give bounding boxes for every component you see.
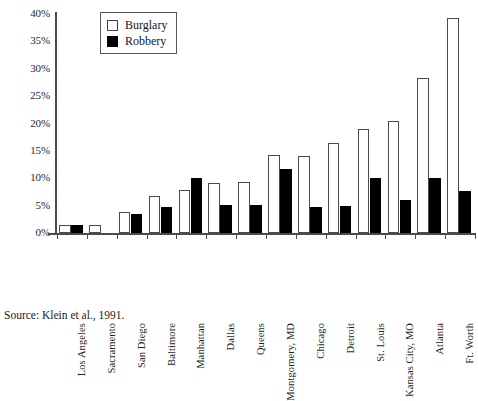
bar-burglary (208, 183, 220, 233)
bar-burglary (447, 18, 459, 233)
bar-group (358, 14, 382, 233)
x-tick-label: Baltimore (166, 323, 177, 366)
bar-robbery (459, 191, 471, 233)
bar-group (59, 14, 83, 233)
x-tick-mark (147, 233, 148, 239)
legend-item-robbery: Robbery (107, 33, 167, 49)
x-tick-mark (176, 233, 177, 239)
x-tick-mark (236, 233, 237, 239)
bar-burglary (89, 225, 101, 233)
x-tick-label: Montgomery, MD (285, 323, 296, 401)
x-tick-mark (326, 233, 327, 239)
x-axis-ticks (57, 233, 475, 241)
bar-group (298, 14, 322, 233)
x-tick-label: Los Angeles (76, 323, 87, 376)
chart-legend: Burglary Robbery (100, 12, 177, 54)
bar-robbery (220, 205, 232, 233)
x-tick-mark (57, 233, 58, 239)
x-tick-mark (356, 233, 357, 239)
bar-burglary (388, 121, 400, 233)
y-tick-label: 0% (6, 227, 50, 238)
bar-burglary (417, 78, 429, 233)
x-tick-label: Detroit (345, 323, 356, 353)
bar-robbery (161, 207, 173, 233)
y-tick-label: 40% (6, 8, 50, 19)
x-tick-mark (87, 233, 88, 239)
bar-robbery (280, 169, 292, 233)
bar-robbery (71, 225, 83, 233)
legend-label-robbery: Robbery (125, 35, 166, 47)
x-tick-label: Kansas City, MO (404, 323, 415, 397)
x-tick-mark (266, 233, 267, 239)
x-tick-mark (445, 233, 446, 239)
bar-robbery (340, 206, 352, 233)
x-tick-label: Manhattan (195, 323, 206, 369)
y-axis: 0%5%10%15%20%25%30%35%40% (0, 0, 50, 333)
x-tick-label: Ft. Worth (464, 323, 475, 364)
x-tick-mark (117, 233, 118, 239)
bar-group (238, 14, 262, 233)
bar-group (208, 14, 232, 233)
bar-burglary (268, 155, 280, 233)
legend-item-burglary: Burglary (107, 17, 167, 33)
bar-group (447, 14, 471, 233)
bar-burglary (59, 225, 71, 233)
x-tick-label: Chicago (315, 323, 326, 359)
bar-robbery (370, 178, 382, 233)
bar-robbery (429, 178, 441, 233)
x-tick-label: Dallas (225, 323, 236, 350)
bar-group (268, 14, 292, 233)
x-tick-mark (385, 233, 386, 239)
bar-burglary (238, 182, 250, 233)
x-tick-label: Atlanta (434, 323, 445, 355)
y-tick-label: 25% (6, 90, 50, 101)
y-tick-label: 35% (6, 35, 50, 46)
x-tick-mark (206, 233, 207, 239)
bar-robbery (250, 205, 262, 233)
y-tick-label: 15% (6, 145, 50, 156)
x-tick-label: San Diego (136, 323, 147, 368)
x-tick-label: Sacramento (106, 323, 117, 374)
bar-robbery (310, 207, 322, 233)
x-tick-mark (475, 233, 476, 239)
x-tick-label: St. Louis (375, 323, 386, 362)
bar-burglary (119, 212, 131, 233)
bar-burglary (149, 196, 161, 233)
legend-swatch-robbery-icon (107, 36, 118, 47)
bar-group (388, 14, 412, 233)
x-tick-mark (296, 233, 297, 239)
y-tick-label: 10% (6, 172, 50, 183)
x-tick-label: Queens (255, 323, 266, 355)
y-tick-label: 20% (6, 118, 50, 129)
bar-group (328, 14, 352, 233)
bar-group (417, 14, 441, 233)
bar-burglary (179, 190, 191, 233)
source-note: Source: Klein et al., 1991. (4, 309, 124, 321)
y-tick-label: 5% (6, 200, 50, 211)
legend-swatch-burglary-icon (107, 20, 118, 31)
legend-label-burglary: Burglary (125, 19, 167, 31)
bar-burglary (358, 129, 370, 233)
y-tick-label: 30% (6, 63, 50, 74)
bar-burglary (298, 156, 310, 233)
bar-burglary (328, 143, 340, 233)
bar-robbery (131, 214, 143, 233)
bar-group (179, 14, 203, 233)
x-tick-mark (415, 233, 416, 239)
bar-robbery (191, 178, 203, 233)
bar-robbery (400, 200, 412, 233)
